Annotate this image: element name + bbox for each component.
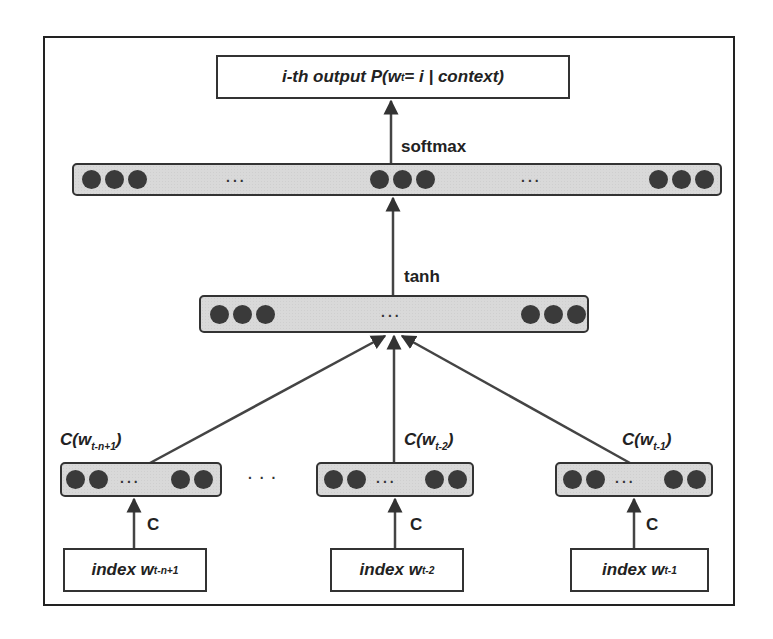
unit-dot [128,170,147,189]
index-box-3: index wt-1 [570,548,709,592]
unit-dot [664,470,683,489]
projection-label-3: C [646,515,658,535]
unit-dot [563,470,582,489]
ellipsis: ... [226,169,247,185]
unit-dot [256,305,275,324]
unit-dot [89,470,108,489]
unit-dot [521,305,540,324]
unit-dot [448,470,467,489]
ellipsis: ... [381,304,402,320]
unit-dot [393,170,412,189]
projection-label-2: C [410,515,422,535]
embedding-layer-2: ... [316,462,474,497]
index-box-2: index wt-2 [330,548,464,592]
unit-dot [370,170,389,189]
unit-dot [586,470,605,489]
softmax-label: softmax [401,137,466,157]
unit-dot [544,305,563,324]
projection-label-1: C [147,515,159,535]
unit-dot [416,170,435,189]
unit-dot [649,170,668,189]
index-box-1: index wt-n+1 [63,548,207,592]
embedding-label-2: C(wt-2) [404,430,453,452]
unit-dot [171,470,190,489]
arrow-emb1-to-tanh [150,336,385,463]
tanh-label: tanh [404,267,440,287]
unit-dot [66,470,85,489]
unit-dot [567,305,586,324]
unit-dot [672,170,691,189]
ellipsis: ... [376,470,397,486]
output-prefix: i-th output P(w [282,67,401,87]
unit-dot [425,470,444,489]
tanh-layer: ... [199,295,589,333]
unit-dot [82,170,101,189]
embedding-label-1: C(wt-n+1) [60,430,121,452]
embedding-label-3: C(wt-1) [622,430,671,452]
unit-dot [347,470,366,489]
unit-dot [324,470,343,489]
ellipsis: ... [615,470,636,486]
unit-dot [687,470,706,489]
softmax-layer: ... ... [72,163,722,196]
ellipsis: ... [120,470,141,486]
embedding-layer-3: ... [555,462,713,497]
output-box: i-th output P(wt = i | context) [216,55,570,99]
inputs-ellipsis: . . . [248,466,277,482]
unit-dot [210,305,229,324]
unit-dot [695,170,714,189]
embedding-layer-1: ... [60,462,222,497]
output-suffix: = i | context) [404,67,504,87]
unit-dot [233,305,252,324]
ellipsis: ... [521,169,542,185]
unit-dot [194,470,213,489]
unit-dot [105,170,124,189]
